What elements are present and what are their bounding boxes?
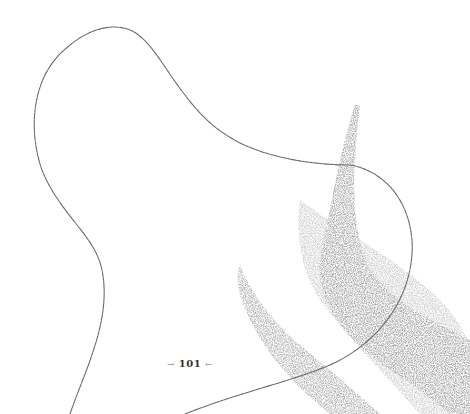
page-number: → 101 ← <box>140 358 240 369</box>
page-number-value: 101 <box>179 358 201 369</box>
texture-strokes <box>238 105 470 414</box>
left-arrow-icon: ← <box>205 359 213 369</box>
right-arrow-icon: → <box>167 359 175 369</box>
abstract-illustration <box>0 0 470 414</box>
